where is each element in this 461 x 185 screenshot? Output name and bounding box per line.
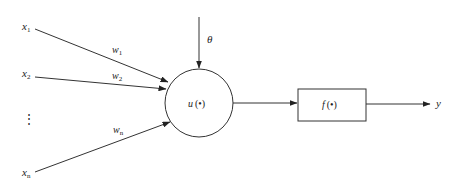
threshold-label: θ — [207, 33, 213, 45]
edge-xn — [35, 122, 170, 172]
summation-arg-label: (•) — [195, 98, 205, 110]
svg-text:w1: w1 — [112, 44, 123, 57]
svg-text:w2: w2 — [112, 70, 123, 83]
svg-text:x1: x1 — [21, 20, 31, 34]
input-x1: x1 w1 — [21, 20, 168, 82]
neuron-diagram: x1 w1 x2 w2 ⋮ xn wn θ u(•) f(•) y — [0, 0, 461, 185]
edge-x1 — [35, 29, 168, 82]
svg-text:u(•): u(•) — [188, 98, 205, 110]
output-label: y — [435, 97, 441, 109]
ellipsis-dots: ⋮ — [23, 112, 35, 126]
input-x2: x2 w2 — [21, 67, 166, 89]
svg-text:wn: wn — [113, 124, 124, 137]
summation-func-label: u — [188, 98, 193, 109]
input-xn: xn wn — [21, 122, 170, 180]
svg-text:f(•): f(•) — [322, 99, 337, 111]
svg-text:xn: xn — [21, 166, 31, 180]
edge-x2 — [35, 77, 166, 89]
activation-arg-label: (•) — [327, 99, 337, 111]
svg-text:x2: x2 — [21, 67, 31, 81]
